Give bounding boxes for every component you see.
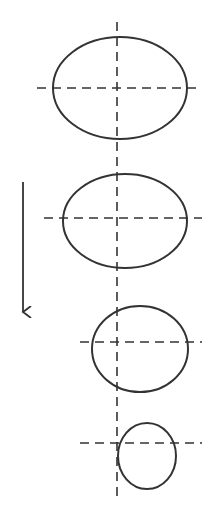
ellipse-2 (63, 174, 187, 268)
horizontal-centerlines-group (37, 88, 202, 443)
ellipses-group (53, 37, 188, 489)
ellipse-4 (118, 423, 176, 489)
ellipse-sequence-diagram (0, 0, 212, 515)
diagram-canvas (0, 0, 212, 515)
ellipse-3 (92, 306, 188, 392)
